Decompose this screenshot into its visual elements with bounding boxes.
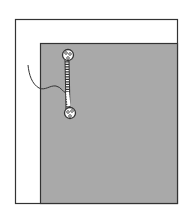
diagram-canvas	[0, 0, 190, 214]
bottom-knot-icon	[65, 108, 76, 119]
top-knot-icon	[63, 50, 74, 61]
fabric-layer	[41, 44, 178, 204]
